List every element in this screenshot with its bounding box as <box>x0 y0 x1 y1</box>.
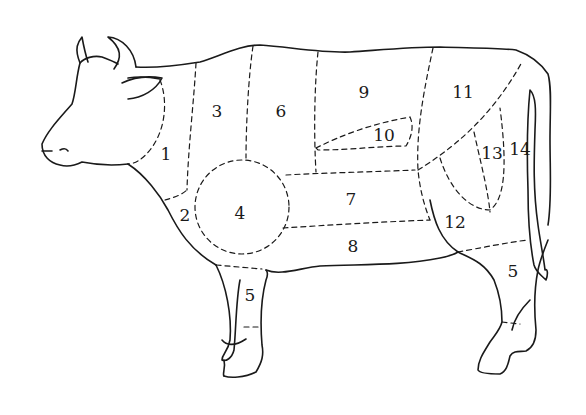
label-9: 9 <box>359 82 370 102</box>
cut-labels: 1 2 3 4 5 6 7 8 9 10 11 12 13 14 5 <box>161 82 531 305</box>
label-3: 3 <box>212 101 223 121</box>
nostril <box>42 149 68 151</box>
label-13: 13 <box>481 143 503 163</box>
label-10: 10 <box>373 125 395 145</box>
label-11: 11 <box>452 82 474 102</box>
cut-shoulder-back <box>246 46 253 158</box>
cut-hind-leg-bottom <box>502 322 520 324</box>
dewlap <box>128 164 216 265</box>
label-7: 7 <box>346 189 357 209</box>
cut-plate <box>283 220 430 228</box>
label-1: 1 <box>161 144 172 164</box>
hind-leg-inner <box>512 300 530 330</box>
head <box>42 56 128 166</box>
cut-loin-back <box>418 48 433 220</box>
front-leg-left <box>216 265 240 361</box>
hind-leg <box>458 240 548 374</box>
cut-shoulder-front <box>187 63 196 190</box>
ear <box>122 77 162 99</box>
label-12: 12 <box>444 212 466 232</box>
cut-sirloin <box>418 62 522 170</box>
cut-brisket <box>165 190 187 200</box>
cut-fore-leg-top <box>216 265 262 269</box>
cut-loin-front <box>315 52 318 172</box>
label-5-front: 5 <box>245 285 256 305</box>
label-8: 8 <box>348 236 359 256</box>
cow-cuts-diagram: 1 2 3 4 5 6 7 8 9 10 11 12 13 14 5 <box>0 0 586 415</box>
label-2: 2 <box>180 205 191 225</box>
label-4: 4 <box>235 203 246 223</box>
cut-neck <box>128 80 165 164</box>
label-14: 14 <box>509 139 531 159</box>
cut-shank-hind <box>458 240 528 252</box>
label-6: 6 <box>276 101 287 121</box>
front-hoof <box>223 360 224 376</box>
label-5-hind: 5 <box>508 261 519 281</box>
cow-outline <box>42 37 551 377</box>
horn-right <box>108 37 136 69</box>
cut-tenderloin <box>316 117 412 150</box>
belly <box>266 252 458 272</box>
cut-rib-lower <box>286 170 415 175</box>
